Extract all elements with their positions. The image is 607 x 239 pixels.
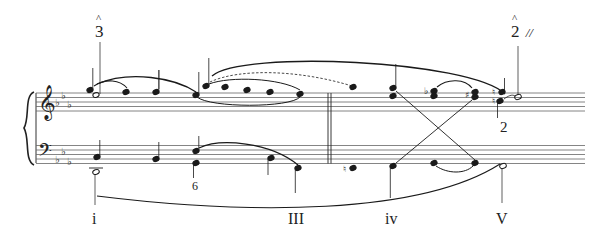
svg-text:♭: ♭ — [55, 97, 60, 108]
treble-clef-icon: 𝄞 — [38, 84, 56, 121]
treble-notes-measure-1 — [86, 42, 304, 98]
svg-text:♭: ♭ — [67, 156, 72, 167]
figured-bass-6: 6 — [192, 180, 198, 192]
grand-staff-brace — [24, 92, 34, 165]
roman-numeral-III: III — [288, 211, 304, 227]
treble-notes-measure-2 — [349, 46, 522, 118]
interruption-mark: // — [526, 25, 533, 40]
roman-numeral-i: i — [92, 211, 96, 227]
scale-degree-3: ^ 3 — [95, 23, 104, 40]
svg-text:♭: ♭ — [61, 146, 66, 157]
roman-numeral-V: V — [496, 211, 508, 227]
svg-text:♭: ♭ — [61, 90, 66, 101]
scale-degree-2: ^ 2 // — [511, 23, 533, 40]
roman-numeral-iv: iv — [385, 211, 397, 227]
figured-bass-2: 2 — [500, 120, 508, 135]
sharp-icon: ♯ — [465, 90, 469, 100]
bass-staff — [36, 146, 585, 164]
natural-icon: ♮ — [343, 164, 346, 174]
natural-icon: ♮ — [492, 96, 495, 106]
double-barline — [328, 93, 331, 164]
bass-clef-icon: 𝄢 — [38, 140, 52, 165]
svg-text:♭: ♭ — [55, 154, 60, 165]
flat-icon: ♭ — [424, 86, 428, 96]
bass-slurs — [97, 143, 500, 208]
svg-text:♭: ♭ — [67, 99, 72, 110]
